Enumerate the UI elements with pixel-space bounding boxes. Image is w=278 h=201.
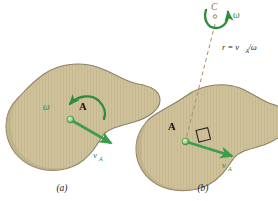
center-c-marker[interactable] (213, 15, 216, 18)
radius-label-tail: /ω (248, 42, 257, 52)
center-c-label: C (211, 2, 218, 12)
mechanics-figure-svg: ω A v A (a) C (0, 0, 278, 201)
caption-a: (a) (56, 183, 67, 194)
velocity-subscript-a: A (98, 156, 103, 162)
velocity-label-a: v (93, 150, 97, 160)
caption-b: (b) (197, 183, 208, 194)
point-a-marker-a[interactable] (67, 116, 74, 123)
velocity-label-b: v (222, 160, 226, 170)
omega-label-b: ω (233, 10, 240, 20)
omega-label-a: ω (43, 102, 50, 112)
velocity-subscript-b: A (227, 166, 232, 172)
point-a-label-a: A (79, 101, 87, 112)
point-a-marker-b[interactable] (182, 138, 189, 145)
point-a-label-b: A (168, 121, 176, 132)
omega-arc-arrow-b[interactable] (205, 10, 228, 28)
figure-root: ω A v A (a) C (0, 0, 278, 201)
radius-label: r = v (222, 42, 239, 52)
panel-a: ω A v A (a) (6, 64, 160, 194)
